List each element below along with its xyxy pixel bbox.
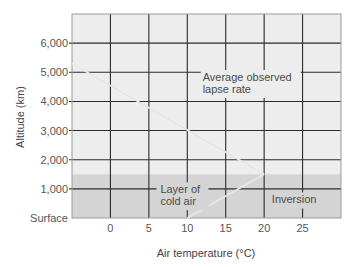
x-tick-label: 5 bbox=[146, 222, 152, 234]
x-tick-label: 25 bbox=[296, 222, 308, 234]
x-tick-label: 15 bbox=[220, 222, 232, 234]
annotation-text: Inversion bbox=[272, 193, 317, 205]
y-tick-label: Surface bbox=[30, 212, 68, 224]
y-tick-label: 4,000 bbox=[40, 95, 68, 107]
y-tick-label: 1,000 bbox=[40, 183, 68, 195]
y-axis-ticks: Surface1,0002,0003,0004,0005,0006,000 bbox=[30, 37, 68, 224]
x-tick-label: 20 bbox=[258, 222, 270, 234]
x-tick-label: 0 bbox=[107, 222, 113, 234]
lapse-rate-chart: Average observedlapse rateLayer ofcold a… bbox=[0, 0, 352, 267]
annotation-text: Layer of bbox=[160, 183, 201, 195]
annotation-text: cold air bbox=[160, 195, 196, 207]
y-tick-label: 2,000 bbox=[40, 154, 68, 166]
y-axis-title: Altitude (km) bbox=[14, 86, 26, 148]
y-tick-label: 5,000 bbox=[40, 66, 68, 78]
x-tick-label: 10 bbox=[181, 222, 193, 234]
x-axis-title: Air temperature (°C) bbox=[157, 247, 256, 259]
x-axis-ticks: 0510152025 bbox=[107, 222, 308, 234]
annotation-text: lapse rate bbox=[203, 83, 251, 95]
y-tick-label: 6,000 bbox=[40, 37, 68, 49]
y-tick-label: 3,000 bbox=[40, 125, 68, 137]
annotation-text: Average observed bbox=[203, 71, 292, 83]
